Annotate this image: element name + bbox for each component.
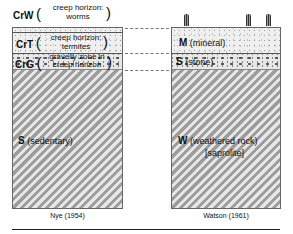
grass-tuft-icon xyxy=(246,14,251,26)
crg-label: CrG ( xyxy=(15,56,41,70)
grass-tuft-icon xyxy=(266,14,271,26)
m-code: M xyxy=(179,37,187,48)
open-paren: ( xyxy=(36,54,41,71)
close-paren: ) xyxy=(107,55,112,69)
mineral-desc: (mineral) xyxy=(190,38,226,48)
correlation-line-bottom xyxy=(125,70,169,71)
correlation-line-top xyxy=(125,28,169,29)
open-paren: ( xyxy=(36,5,41,22)
crg-desc-line2: creep horizon xyxy=(46,61,108,69)
crg-description: gravelly zone in creep horizon xyxy=(46,53,108,69)
sedentary-desc: (sedentary) xyxy=(27,136,73,146)
nye-caption: Nye (1954) xyxy=(12,212,123,219)
crt-desc-line1: creep horizon: xyxy=(46,33,106,42)
watson-caption: Watson (1961) xyxy=(171,212,281,219)
w-code: W xyxy=(178,135,187,146)
s-code: S xyxy=(176,56,183,67)
crt-code: CrT xyxy=(16,39,33,50)
crw-desc-line2: worms xyxy=(50,12,106,21)
weathered-desc: (weathered rock) xyxy=(190,136,258,146)
s-code: S xyxy=(18,135,25,146)
sedentary-label: S (sedentary) xyxy=(18,136,73,146)
crt-desc-line2: termites xyxy=(46,42,106,51)
close-paren: ) xyxy=(103,35,108,49)
saprolite-label: [saprolite] xyxy=(205,148,244,158)
bottom-rule xyxy=(12,229,280,230)
open-paren: ( xyxy=(36,34,41,51)
mineral-label: M (mineral) xyxy=(179,38,225,48)
crt-label: CrT ( xyxy=(16,36,41,50)
stone-label: S (stone) xyxy=(176,57,213,67)
crw-label: CrW ( xyxy=(13,7,41,21)
crw-code: CrW xyxy=(13,10,34,21)
correlation-line-mid xyxy=(125,53,169,54)
watson-column xyxy=(171,27,281,209)
weathered-rock-label: W (weathered rock) xyxy=(178,136,258,146)
stone-desc: (stone) xyxy=(185,57,213,67)
close-paren: ) xyxy=(106,6,111,20)
grass-tuft-icon xyxy=(184,14,189,26)
crt-description: creep horizon: termites xyxy=(46,33,106,51)
crg-code: CrG xyxy=(15,59,34,70)
crw-desc-line1: creep horizon: xyxy=(50,3,106,12)
crw-description: creep horizon: worms xyxy=(50,3,106,21)
